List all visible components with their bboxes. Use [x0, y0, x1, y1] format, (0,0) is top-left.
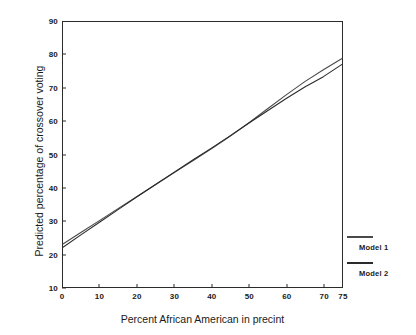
y-tick-label: 40	[49, 183, 58, 192]
y-tick-label: 30	[49, 217, 58, 226]
series-line-model-2	[63, 64, 342, 247]
legend-entry-model-1: Model 1	[347, 230, 416, 256]
plot-area	[62, 21, 343, 288]
y-tick-label: 10	[49, 284, 58, 293]
legend-label-model-2: Model 2	[359, 269, 388, 278]
x-tick-label: 50	[245, 292, 254, 301]
legend-label-model-1: Model 1	[359, 243, 388, 252]
legend-swatch-model-1	[347, 236, 373, 238]
y-tick-mark	[62, 221, 66, 222]
x-axis-title: Percent African American in precint	[62, 313, 343, 325]
x-tick-label: 30	[170, 292, 179, 301]
x-tick-mark	[211, 284, 212, 288]
y-tick-label: 20	[49, 250, 58, 259]
y-tick-mark	[62, 187, 66, 188]
x-tick-mark	[249, 284, 250, 288]
x-tick-label: 70	[320, 292, 329, 301]
x-tick-mark	[174, 284, 175, 288]
y-tick-label: 60	[49, 117, 58, 126]
legend-swatch-model-2	[347, 262, 373, 264]
chart-legend: Model 1 Model 2	[347, 230, 416, 282]
y-tick-mark	[62, 154, 66, 155]
x-tick-mark	[136, 284, 137, 288]
y-tick-mark	[62, 288, 66, 289]
x-tick-label: 0	[60, 292, 65, 301]
x-tick-label: 20	[132, 292, 141, 301]
series-line-model-1	[63, 58, 342, 244]
series-group	[63, 58, 342, 247]
y-tick-mark	[62, 54, 66, 55]
y-tick-label: 70	[49, 83, 58, 92]
x-tick-mark	[286, 284, 287, 288]
series-svg	[63, 22, 342, 287]
x-tick-mark	[324, 284, 325, 288]
y-axis-title: Predicted percentage of crossover voting	[33, 36, 45, 286]
x-tick-mark	[99, 284, 100, 288]
x-tick-label: 75	[338, 292, 347, 301]
y-tick-mark	[62, 254, 66, 255]
x-tick-label: 10	[95, 292, 104, 301]
legend-entry-model-2: Model 2	[347, 256, 416, 282]
y-tick-label: 50	[49, 150, 58, 159]
y-tick-mark	[62, 87, 66, 88]
y-tick-mark	[62, 121, 66, 122]
chart-figure: 102030405060708090 01020304050607075 Pre…	[0, 0, 416, 335]
x-tick-label: 40	[207, 292, 216, 301]
y-tick-label: 80	[49, 50, 58, 59]
y-tick-label: 90	[49, 17, 58, 26]
x-tick-label: 60	[282, 292, 291, 301]
